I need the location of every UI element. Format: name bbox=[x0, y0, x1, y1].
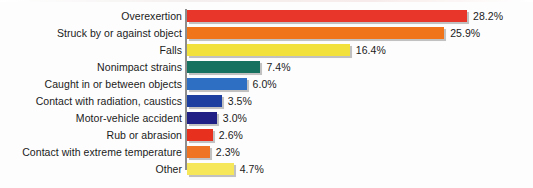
bar-category-label: Struck by or against object bbox=[0, 27, 182, 39]
bar-track bbox=[187, 61, 260, 73]
bar-rect bbox=[187, 112, 217, 124]
bar-value-label: 3.0% bbox=[223, 112, 247, 124]
bar-track bbox=[187, 44, 350, 56]
bar-row: Contact with radiation, caustics3.5% bbox=[0, 94, 533, 111]
plot-area: Overexertion28.2%Struck by or against ob… bbox=[0, 9, 533, 179]
horizontal-bar-chart: Overexertion28.2%Struck by or against ob… bbox=[0, 0, 533, 188]
bar-row: Caught in or between objects6.0% bbox=[0, 77, 533, 94]
bar-row: Other4.7% bbox=[0, 162, 533, 179]
bar-row: Falls16.4% bbox=[0, 43, 533, 60]
bar-track bbox=[187, 146, 210, 158]
bar-category-label: Nonimpact strains bbox=[0, 61, 182, 73]
bar-category-label: Caught in or between objects bbox=[0, 78, 182, 90]
bar-rect bbox=[187, 163, 234, 175]
bar-category-label: Contact with extreme temperature bbox=[0, 146, 182, 158]
bar-value-label: 3.5% bbox=[228, 95, 252, 107]
bar-row: Motor-vehicle accident3.0% bbox=[0, 111, 533, 128]
bar-rect bbox=[187, 10, 467, 22]
bar-rect bbox=[187, 44, 350, 56]
figure-top-rule bbox=[0, 0, 533, 2]
bar-rect bbox=[187, 129, 213, 141]
bar-value-label: 2.6% bbox=[219, 129, 243, 141]
bar-track bbox=[187, 112, 217, 124]
bar-rect bbox=[187, 61, 260, 73]
bar-track bbox=[187, 78, 247, 90]
bar-rect bbox=[187, 27, 444, 39]
bar-value-label: 7.4% bbox=[266, 61, 290, 73]
bar-category-label: Other bbox=[0, 163, 182, 175]
bar-value-label: 25.9% bbox=[450, 27, 480, 39]
bar-category-label: Motor-vehicle accident bbox=[0, 112, 182, 124]
bar-track bbox=[187, 129, 213, 141]
bar-value-label: 4.7% bbox=[240, 163, 264, 175]
bar-row: Rub or abrasion2.6% bbox=[0, 128, 533, 145]
bar-track bbox=[187, 95, 222, 107]
bar-rect bbox=[187, 95, 222, 107]
bar-category-label: Falls bbox=[0, 44, 182, 56]
bar-track bbox=[187, 10, 467, 22]
bar-track bbox=[187, 27, 444, 39]
bar-category-label: Rub or abrasion bbox=[0, 129, 182, 141]
bar-category-label: Overexertion bbox=[0, 10, 182, 22]
bar-value-label: 16.4% bbox=[356, 44, 386, 56]
bar-track bbox=[187, 163, 234, 175]
bar-rect bbox=[187, 146, 210, 158]
bar-value-label: 2.3% bbox=[216, 146, 240, 158]
bar-row: Contact with extreme temperature2.3% bbox=[0, 145, 533, 162]
bar-value-label: 6.0% bbox=[253, 78, 277, 90]
bar-category-label: Contact with radiation, caustics bbox=[0, 95, 182, 107]
bar-value-label: 28.2% bbox=[473, 10, 503, 22]
bar-rect bbox=[187, 78, 247, 90]
bar-row: Struck by or against object25.9% bbox=[0, 26, 533, 43]
bar-row: Overexertion28.2% bbox=[0, 9, 533, 26]
bar-row: Nonimpact strains7.4% bbox=[0, 60, 533, 77]
